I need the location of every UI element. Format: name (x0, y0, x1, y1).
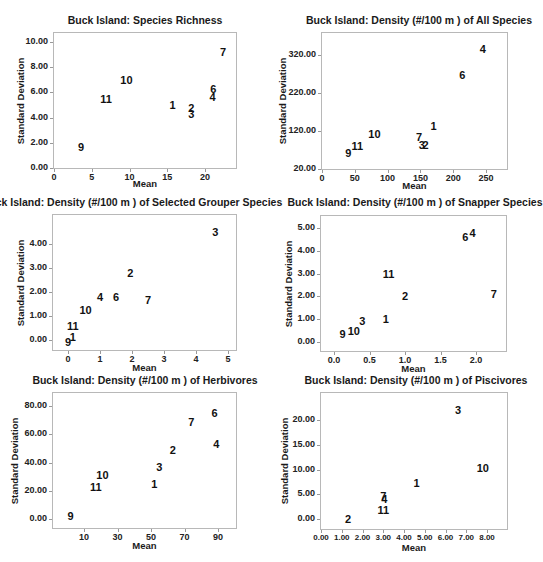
x-tick-label: 4 (181, 354, 211, 364)
chart-title: Buck Island: Density (#/100 m ) of Herbi… (32, 374, 257, 386)
x-tick-mark (68, 351, 69, 354)
y-tick-mark (317, 519, 320, 520)
x-tick-mark (321, 530, 322, 533)
data-point-label: 6 (459, 69, 465, 80)
data-point-label: 7 (416, 131, 422, 142)
x-tick-label: 0 (39, 172, 69, 182)
y-tick-mark (50, 42, 53, 43)
data-point-label: 3 (455, 405, 461, 416)
data-point-label: 9 (65, 337, 71, 348)
data-point-label: 10 (79, 305, 91, 316)
y-tick-mark (317, 274, 320, 275)
x-tick-mark (54, 169, 55, 172)
data-point-label: 9 (68, 511, 74, 522)
y-tick-mark (50, 168, 53, 169)
data-point-label: 3 (359, 316, 365, 327)
x-tick-mark (164, 351, 165, 354)
x-tick-mark (92, 169, 93, 172)
data-point-label: 2 (402, 291, 408, 302)
y-tick-mark (317, 470, 320, 471)
x-tick-mark (322, 170, 323, 173)
y-tick-label: 20.00 (275, 414, 315, 424)
x-tick-mark (130, 169, 131, 172)
data-point-label: 1 (151, 478, 157, 489)
data-point-label: 9 (78, 141, 84, 152)
data-point-label: 10 (348, 325, 360, 336)
x-tick-mark (486, 170, 487, 173)
x-tick-mark (205, 169, 206, 172)
data-point-label: 7 (380, 491, 386, 502)
data-point-label: 2 (345, 514, 351, 525)
x-tick-label: 3 (149, 354, 179, 364)
y-tick-label: 1.00 (7, 310, 47, 320)
y-tick-mark (49, 491, 52, 492)
x-tick-mark (118, 529, 119, 532)
y-tick-label: 3.00 (7, 262, 47, 272)
data-point-label: 10 (120, 74, 132, 85)
y-tick-label: 0.00 (7, 334, 47, 344)
data-point-label: 6 (210, 83, 216, 94)
y-tick-mark (49, 519, 52, 520)
x-tick-label: 50 (340, 173, 370, 183)
data-point-label: 4 (469, 227, 475, 238)
x-tick-mark (100, 351, 101, 354)
y-tick-label: 6.00 (8, 86, 48, 96)
x-tick-label: 30 (103, 532, 133, 542)
x-tick-mark (425, 530, 426, 533)
y-tick-label: 8.00 (8, 61, 48, 71)
x-tick-mark (476, 352, 477, 355)
y-tick-mark (318, 55, 321, 56)
data-point-label: 1 (430, 121, 436, 132)
data-point-label: 11 (377, 504, 389, 515)
y-tick-label: 2.00 (8, 137, 48, 147)
data-point-label: 11 (100, 93, 112, 104)
data-point-label: 1 (413, 477, 419, 488)
x-tick-mark (466, 530, 467, 533)
x-tick-mark (446, 530, 447, 533)
chart-title: Buck Island: Density (#/100 m ) of Pisci… (305, 374, 528, 386)
data-point-label: 11 (90, 481, 102, 492)
x-tick-mark (370, 352, 371, 355)
y-tick-mark (317, 319, 320, 320)
y-tick-label: 1.00 (275, 313, 315, 323)
y-tick-label: 5.00 (275, 488, 315, 498)
y-tick-label: 0.00 (275, 336, 315, 346)
y-tick-mark (317, 445, 320, 446)
data-point-label: 4 (480, 43, 486, 54)
x-tick-label: 250 (471, 173, 501, 183)
chart-title: Buck Island: Species Richness (68, 14, 223, 26)
data-point-label: 2 (127, 267, 133, 278)
x-tick-mark (84, 529, 85, 532)
y-tick-label: 10.00 (8, 36, 48, 46)
x-tick-mark (334, 352, 335, 355)
plot-area (52, 214, 237, 351)
x-tick-label: 10 (115, 172, 145, 182)
y-tick-label: 80.00 (7, 400, 47, 410)
y-tick-mark (317, 494, 320, 495)
x-tick-mark (342, 530, 343, 533)
x-tick-mark (487, 530, 488, 533)
data-point-label: 11 (383, 268, 395, 279)
x-tick-mark (453, 170, 454, 173)
y-tick-label: 120.00 (276, 125, 316, 135)
x-tick-label: 10 (69, 532, 99, 542)
x-tick-label: 2 (117, 354, 147, 364)
y-tick-label: 220.00 (276, 87, 316, 97)
y-tick-mark (49, 292, 52, 293)
data-point-label: 3 (212, 227, 218, 238)
x-tick-label: 200 (438, 173, 468, 183)
y-tick-label: 320.00 (276, 49, 316, 59)
x-tick-label: 2.0 (461, 355, 491, 365)
data-point-label: 4 (213, 439, 219, 450)
y-tick-label: 4.00 (8, 112, 48, 122)
x-tick-label: 1.0 (390, 355, 420, 365)
x-tick-label: 20 (190, 172, 220, 182)
x-tick-label: 15 (152, 172, 182, 182)
y-tick-mark (49, 316, 52, 317)
y-tick-label: 3.00 (275, 268, 315, 278)
x-tick-mark (388, 170, 389, 173)
x-tick-mark (404, 530, 405, 533)
x-tick-label: 0 (307, 173, 337, 183)
y-tick-mark (317, 420, 320, 421)
x-tick-label: 1.5 (426, 355, 456, 365)
